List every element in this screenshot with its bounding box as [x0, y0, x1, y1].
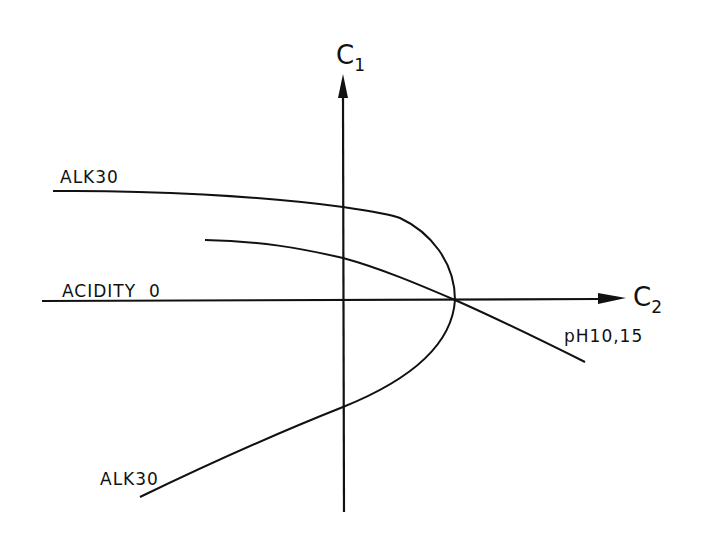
- c2-axis-label: C2: [633, 284, 662, 316]
- ph-label: pH10,15: [564, 328, 643, 345]
- c2-main: C: [633, 282, 651, 312]
- diagram-canvas: [0, 0, 703, 540]
- alk30-top-label: ALK30: [60, 169, 119, 186]
- c1-axis-label: C1: [336, 42, 365, 74]
- c1-subscript: 1: [354, 55, 365, 75]
- alk30-bottom-label: ALK30: [100, 471, 159, 488]
- c1-axis: [338, 74, 348, 512]
- c2-subscript: 2: [651, 297, 662, 317]
- acidity-label: ACIDITY 0: [62, 283, 161, 300]
- c1-arrow-icon: [338, 74, 348, 98]
- c1-main: C: [336, 40, 354, 70]
- alk30-curve: [53, 191, 455, 497]
- c2-arrow-icon: [598, 293, 626, 304]
